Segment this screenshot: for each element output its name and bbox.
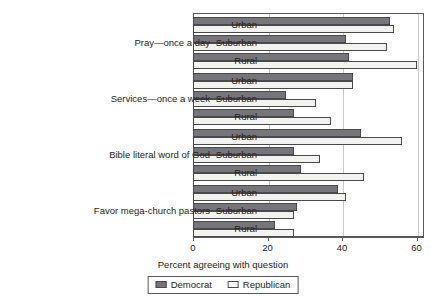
region-label-suburban-group1: Suburban: [216, 38, 257, 48]
x-tick-20: [268, 237, 269, 241]
group-label-2: Services—once a week: [111, 94, 210, 104]
bar-democrat-rural-group1: [193, 53, 349, 61]
legend-label-republican: Republican: [243, 279, 291, 290]
legend: Democrat Republican: [148, 276, 299, 294]
group-label-3: Bible literal word of God: [109, 150, 210, 160]
bar-republican-urban-group4: [193, 193, 346, 201]
legend-label-democrat: Democrat: [171, 279, 212, 290]
bar-republican-urban-group1: [193, 25, 394, 33]
region-label-rural-group4: Rural: [234, 224, 257, 234]
bar-democrat-urban-group3: [193, 129, 361, 137]
legend-item-republican[interactable]: Republican: [228, 279, 291, 290]
region-label-suburban-group2: Suburban: [216, 94, 257, 104]
x-axis-line: [193, 237, 424, 238]
x-tick-label-20: 20: [262, 242, 273, 253]
region-label-rural-group1: Rural: [234, 56, 257, 66]
legend-item-democrat[interactable]: Democrat: [156, 279, 212, 290]
bar-republican-rural-group3: [193, 173, 364, 181]
x-tick-40: [342, 237, 343, 241]
bar-democrat-urban-group1: [193, 17, 390, 25]
x-tick-60: [417, 237, 418, 241]
region-label-suburban-group4: Suburban: [216, 206, 257, 216]
region-label-rural-group2: Rural: [234, 112, 257, 122]
bar-republican-rural-group2: [193, 117, 331, 125]
region-label-urban-group2: Urban: [231, 76, 257, 86]
region-label-suburban-group3: Suburban: [216, 150, 257, 160]
group-label-4: Favor mega-church pastors: [94, 206, 210, 216]
legend-swatch-democrat-icon: [156, 281, 167, 288]
region-label-urban-group1: Urban: [231, 20, 257, 30]
group-label-1: Pray—once a day: [134, 38, 210, 48]
x-axis-title: Percent agreeing with question: [0, 259, 446, 270]
bar-democrat-urban-group2: [193, 73, 353, 81]
x-tick-0: [193, 237, 194, 241]
bar-republican-urban-group2: [193, 81, 353, 89]
region-label-urban-group4: Urban: [231, 188, 257, 198]
region-label-rural-group3: Rural: [234, 168, 257, 178]
region-label-urban-group3: Urban: [231, 132, 257, 142]
bar-republican-rural-group1: [193, 61, 417, 69]
bar-republican-urban-group3: [193, 137, 402, 145]
legend-swatch-republican-icon: [228, 281, 239, 288]
x-tick-label-0: 0: [190, 242, 195, 253]
bar-democrat-urban-group4: [193, 185, 338, 193]
x-tick-label-60: 60: [411, 242, 422, 253]
x-tick-label-40: 40: [337, 242, 348, 253]
